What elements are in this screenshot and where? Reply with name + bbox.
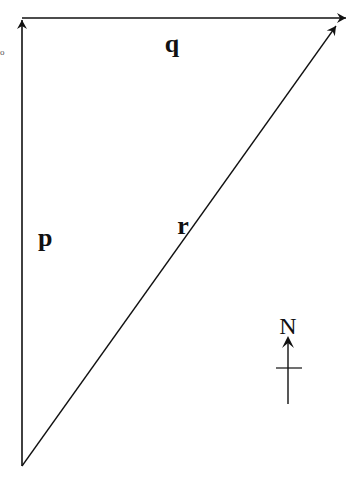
label-r: r xyxy=(177,211,189,240)
stray-mark: o xyxy=(0,47,5,57)
vector-r-line xyxy=(22,26,336,466)
vector-diagram: q p r o N xyxy=(0,0,363,484)
label-q: q xyxy=(165,29,180,58)
label-p: p xyxy=(38,223,52,252)
north-compass-icon: N xyxy=(276,313,302,404)
compass-label: N xyxy=(279,313,296,339)
